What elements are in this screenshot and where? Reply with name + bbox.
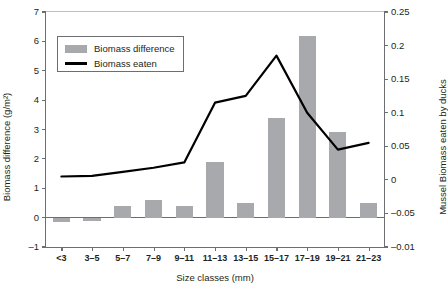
line-swatch-icon (65, 62, 87, 64)
y-axis-right-tick (384, 146, 388, 147)
y-axis-left-tick-label: 2 (34, 154, 39, 164)
chart-legend: Biomass difference Biomass eaten (57, 36, 184, 72)
legend-item-biomass-difference: Biomass difference (65, 41, 177, 56)
legend-label: Biomass eaten (94, 59, 157, 69)
y-axis-right-tick-label: 0.05 (391, 142, 410, 152)
x-axis-tick (92, 247, 93, 251)
y-axis-left-title: Biomass difference (g/m²) (1, 57, 12, 237)
y-axis-right-tick (384, 112, 388, 113)
y-axis-right-tick-label: 0 (391, 175, 396, 185)
y-axis-left-tick-label: 7 (34, 7, 39, 17)
y-axis-left-tick-label: 6 (34, 37, 39, 47)
x-axis-tick (215, 247, 216, 251)
x-axis-tick-label: 19–21 (325, 254, 350, 263)
x-axis-tick-label: 15–17 (264, 254, 289, 263)
x-axis-tick-label: 5–7 (115, 254, 130, 263)
y-axis-right-tick-label: 0.25 (391, 7, 410, 17)
y-axis-right-tick (384, 179, 388, 180)
x-axis-tick-label: 3–5 (85, 254, 100, 263)
x-axis-tick (154, 247, 155, 251)
x-axis-tick (123, 247, 124, 251)
x-axis-tick (338, 247, 339, 251)
x-axis-tick (246, 247, 247, 251)
y-axis-right-tick-label: –0.05 (391, 209, 415, 219)
x-axis-tick-label: 17–19 (295, 254, 320, 263)
x-axis-tick-label: 21–23 (356, 254, 381, 263)
y-axis-right-tick (384, 11, 388, 12)
x-axis-tick (276, 247, 277, 251)
y-axis-right-tick (384, 45, 388, 46)
x-axis-tick-label: 7–9 (146, 254, 161, 263)
x-axis-tick-label: 11–13 (203, 254, 228, 263)
y-axis-left-tick-label: 0 (34, 213, 39, 223)
x-axis-tick (369, 247, 370, 251)
y-axis-right-tick-label: 0.15 (391, 74, 410, 84)
y-axis-right-tick-label: –0.01 (391, 242, 415, 252)
x-axis-tick-label: <3 (56, 254, 66, 263)
y-axis-left-tick-label: 5 (34, 66, 39, 76)
y-axis-right-tick-label: 0.1 (391, 108, 404, 118)
legend-label: Biomass difference (94, 44, 175, 54)
y-axis-left-tick-label: 3 (34, 125, 39, 135)
x-axis-tick (184, 247, 185, 251)
x-axis-tick (61, 247, 62, 251)
y-axis-right-tick-label: 0.2 (391, 41, 404, 51)
line-path (61, 56, 368, 177)
x-axis-tick-label: 13–15 (233, 254, 258, 263)
y-axis-left-tick-label: 1 (34, 184, 39, 194)
x-axis-title: Size classes (mm) (45, 272, 385, 283)
bar-swatch-icon (65, 45, 87, 53)
y-axis-left-tick-label: 4 (34, 95, 39, 105)
x-axis-tick (307, 247, 308, 251)
y-axis-right-tick (384, 246, 388, 247)
y-axis-right-tick (384, 79, 388, 80)
x-axis-tick-label: 9–11 (175, 254, 195, 263)
y-axis-right-title: Mussel Biomass eaten by ducks (437, 42, 448, 252)
legend-item-biomass-eaten: Biomass eaten (65, 56, 177, 71)
y-axis-left-tick-label: –1 (28, 242, 39, 252)
y-axis-right-tick (384, 213, 388, 214)
